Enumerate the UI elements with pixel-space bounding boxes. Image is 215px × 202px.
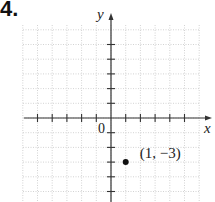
data-point [123, 159, 129, 165]
coordinate-plane: y x 0 (1, −3) [0, 0, 215, 202]
x-axis-label: x [203, 120, 211, 136]
y-axis-arrow-icon [109, 13, 114, 20]
point-label: (1, −3) [140, 145, 181, 162]
y-axis-label: y [95, 6, 104, 22]
origin-label: 0 [98, 121, 105, 136]
